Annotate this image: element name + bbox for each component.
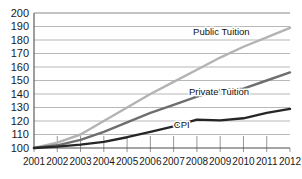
line-chart: 200190180170160150140130120110100 200120… bbox=[0, 0, 302, 179]
series-label-cpi: CPI bbox=[174, 119, 190, 130]
series-label-private-tuition: Private Tuition bbox=[189, 86, 249, 97]
series-annotations: Public TuitionPublic TuitionPrivate Tuit… bbox=[174, 26, 250, 130]
x-axis-tick-label: 2004 bbox=[93, 156, 116, 167]
x-axis-tick-label: 2001 bbox=[23, 156, 46, 167]
x-axis-tick-labels: 2001200220032004200520062007200820092010… bbox=[23, 156, 302, 167]
x-axis-tick-label: 2006 bbox=[139, 156, 162, 167]
x-axis-tick-label: 2005 bbox=[116, 156, 139, 167]
y-axis-tick-label: 180 bbox=[11, 34, 29, 46]
x-axis-tick-label: 2007 bbox=[163, 156, 186, 167]
y-axis-tick-label: 110 bbox=[11, 128, 29, 140]
y-axis-tick-labels: 200190180170160150140130120110100 bbox=[11, 7, 29, 154]
y-axis-tick-label: 140 bbox=[11, 88, 29, 100]
y-axis-tick-label: 130 bbox=[11, 101, 29, 113]
y-axis-tick-label: 170 bbox=[11, 47, 29, 59]
y-axis-tick-label: 200 bbox=[11, 7, 29, 19]
y-axis-tick-label: 120 bbox=[11, 115, 29, 127]
x-axis-tick-label: 2010 bbox=[232, 156, 255, 167]
y-axis-tick-label: 190 bbox=[11, 20, 29, 32]
data-series bbox=[34, 28, 290, 148]
y-axis-tick-label: 150 bbox=[11, 74, 29, 86]
x-axis-tick-label: 2002 bbox=[46, 156, 69, 167]
x-axis-tick-label: 2003 bbox=[69, 156, 92, 167]
x-axis-tick-label: 2011 bbox=[256, 156, 278, 167]
series-label-public-tuition: Public Tuition bbox=[193, 26, 250, 37]
y-axis-tick-label: 100 bbox=[11, 142, 29, 154]
chart-container: 200190180170160150140130120110100 200120… bbox=[0, 0, 302, 179]
y-axis-tick-label: 160 bbox=[11, 61, 29, 73]
x-axis-tick-label: 2012 bbox=[279, 156, 302, 167]
x-axis-tick-label: 2009 bbox=[209, 156, 232, 167]
x-axis-tick-label: 2008 bbox=[186, 156, 209, 167]
